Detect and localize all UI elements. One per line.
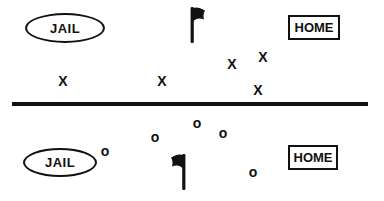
player-marker-x: X bbox=[227, 57, 236, 71]
bottom-home-box: HOME bbox=[288, 145, 338, 170]
player-marker-x: X bbox=[157, 74, 166, 88]
player-marker-o: o bbox=[101, 144, 110, 158]
bottom-flag-icon bbox=[170, 153, 196, 191]
player-marker-x: X bbox=[253, 83, 262, 97]
top-jail-label: JAIL bbox=[50, 21, 80, 36]
top-home-label: HOME bbox=[295, 20, 334, 35]
player-marker-o: o bbox=[249, 165, 258, 179]
player-marker-x: X bbox=[58, 74, 67, 88]
top-home-box: HOME bbox=[288, 15, 340, 40]
player-marker-x: X bbox=[258, 50, 267, 64]
top-flag-icon bbox=[180, 6, 206, 44]
game-field-diagram: JAIL HOME JAIL HOME XXXXXooooo bbox=[0, 0, 384, 201]
center-dividing-line bbox=[12, 102, 368, 106]
bottom-home-label: HOME bbox=[294, 150, 333, 165]
player-marker-o: o bbox=[219, 126, 228, 140]
bottom-jail-label: JAIL bbox=[45, 155, 75, 170]
player-marker-o: o bbox=[151, 130, 160, 144]
top-jail-ellipse: JAIL bbox=[25, 13, 105, 43]
player-marker-o: o bbox=[193, 116, 202, 130]
bottom-jail-ellipse: JAIL bbox=[23, 148, 97, 177]
